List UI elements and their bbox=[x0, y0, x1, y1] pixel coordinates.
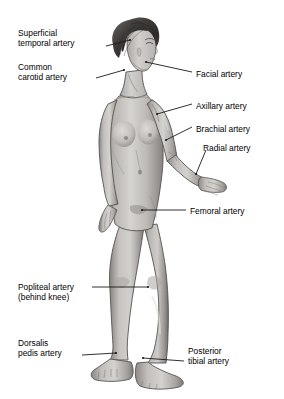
nipple-left bbox=[148, 133, 152, 137]
label-superficial-temporal-artery: Superficialtemporal artery bbox=[18, 28, 74, 49]
anchor-dot-radial-artery bbox=[195, 173, 197, 175]
label-axillary-artery: Axillary artery bbox=[196, 101, 247, 111]
face bbox=[127, 29, 156, 71]
label-line: Femoral artery bbox=[190, 206, 244, 216]
anchor-dot-popliteal-artery bbox=[147, 286, 149, 288]
arm-left-forearm bbox=[167, 155, 203, 188]
anchor-dot-superficial-temporal-artery bbox=[129, 39, 131, 41]
nipple-right bbox=[124, 136, 128, 140]
label-line: Superficial bbox=[18, 28, 74, 38]
arterial-pulse-points-diagram: Superficialtemporal arteryCommoncarotid … bbox=[0, 0, 284, 399]
anchor-dot-posterior-tibial-artery bbox=[142, 357, 144, 359]
label-line: Radial artery bbox=[203, 143, 250, 153]
label-line: Axillary artery bbox=[196, 101, 247, 111]
label-popliteal-artery: Popliteal artery(behind knee) bbox=[18, 282, 74, 303]
label-posterior-tibial-artery: Posteriortibial artery bbox=[188, 346, 229, 367]
leader-line-common-carotid-artery bbox=[96, 70, 124, 78]
leader-line-facial-artery bbox=[146, 62, 192, 72]
label-femoral-artery: Femoral artery bbox=[190, 206, 244, 216]
foot-right bbox=[91, 359, 133, 381]
anchor-dot-brachial-artery bbox=[165, 139, 167, 141]
leader-line-dorsalis-pedis-artery bbox=[82, 353, 116, 355]
label-line: Popliteal artery bbox=[18, 282, 74, 292]
label-brachial-artery: Brachial artery bbox=[196, 124, 250, 134]
anchor-dot-common-carotid-artery bbox=[123, 69, 125, 71]
label-line: Dorsalis bbox=[18, 338, 62, 348]
anchor-dot-axillary-artery bbox=[156, 113, 158, 115]
label-line: Common bbox=[18, 62, 67, 72]
label-common-carotid-artery: Commoncarotid artery bbox=[18, 62, 67, 83]
label-line: Posterior bbox=[188, 346, 229, 356]
anchor-dot-dorsalis-pedis-artery bbox=[115, 352, 117, 354]
foot-left bbox=[135, 362, 183, 389]
anchor-dot-femoral-artery bbox=[141, 209, 143, 211]
leg-right bbox=[109, 225, 144, 360]
neck bbox=[120, 70, 147, 98]
navel bbox=[138, 169, 142, 174]
label-dorsalis-pedis-artery: Dorsalispedis artery bbox=[18, 338, 62, 359]
label-line: Facial artery bbox=[196, 69, 242, 79]
label-line: temporal artery bbox=[18, 38, 74, 48]
anchor-dot-facial-artery bbox=[145, 61, 147, 63]
label-radial-artery: Radial artery bbox=[203, 143, 250, 153]
label-line: (behind knee) bbox=[18, 292, 74, 302]
leg-left bbox=[144, 224, 168, 363]
label-line: pedis artery bbox=[18, 348, 62, 358]
ear bbox=[137, 48, 141, 56]
breast-right bbox=[113, 121, 136, 147]
label-line: carotid artery bbox=[18, 72, 67, 82]
label-line: tibial artery bbox=[188, 356, 229, 366]
hand-left bbox=[198, 177, 226, 192]
label-line: Brachial artery bbox=[196, 124, 250, 134]
breast-left bbox=[138, 120, 159, 145]
leader-line-radial-artery bbox=[196, 150, 206, 174]
label-facial-artery: Facial artery bbox=[196, 69, 242, 79]
